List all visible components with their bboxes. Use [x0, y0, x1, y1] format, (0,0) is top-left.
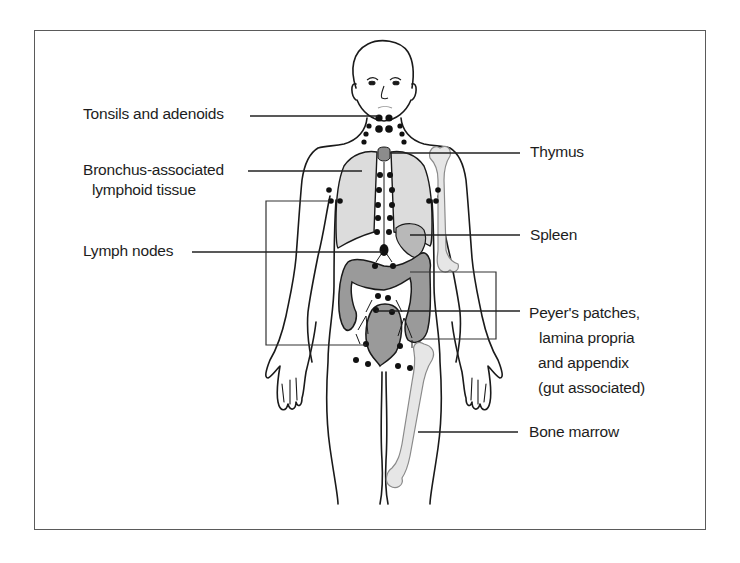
label-thymus: Thymus	[530, 142, 584, 162]
thymus	[378, 147, 390, 161]
femur	[386, 342, 433, 487]
body-diagram	[0, 0, 740, 563]
label-tonsils-and-adenoids: Tonsils and adenoids	[83, 104, 224, 124]
label-lymph-nodes: Lymph nodes	[83, 241, 173, 261]
label-bronchus-associated-lymphoid-tissue: Bronchus-associated lymphoid tissue	[83, 160, 224, 200]
label-spleen: Spleen	[530, 225, 577, 245]
label-bone-marrow: Bone marrow	[529, 422, 619, 442]
face	[367, 78, 401, 108]
label-peyers-patches-gut-associated: Peyer's patches, lamina propria and appe…	[529, 300, 645, 400]
